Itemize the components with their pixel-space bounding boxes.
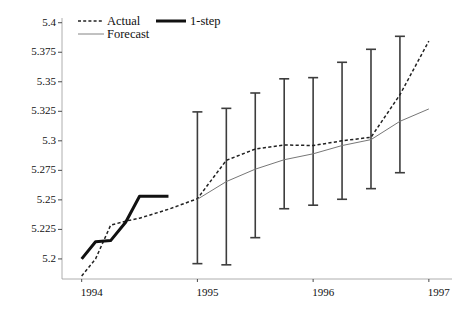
- y-tick-label: 5.375: [8, 46, 56, 57]
- y-tick-label: 5.35: [8, 76, 56, 87]
- y-tick-label: 5.225: [8, 223, 56, 234]
- legend-label-actual: Actual: [107, 15, 140, 28]
- forecast-chart: Actual Forecast 1-step 5.25.2255.255.275…: [0, 0, 464, 310]
- chart-plot-area: [0, 0, 464, 310]
- x-tick-label: 1996: [312, 287, 334, 298]
- x-tick-label: 1995: [196, 287, 218, 298]
- x-axis-tick-marks: [82, 279, 429, 282]
- y-tick-label: 5.25: [8, 194, 56, 205]
- y-tick-label: 5.2: [8, 253, 56, 264]
- series-line-1-step: [82, 196, 169, 259]
- x-tick-label: 1997: [428, 287, 450, 298]
- y-tick-label: 5.325: [8, 105, 56, 116]
- x-tick-label: 1994: [81, 287, 103, 298]
- legend-label-1-step: 1-step: [190, 15, 221, 28]
- forecast-error-bars: [192, 36, 405, 265]
- y-tick-label: 5.3: [8, 135, 56, 146]
- y-tick-label: 5.4: [8, 17, 56, 28]
- y-tick-label: 5.275: [8, 164, 56, 175]
- y-axis-tick-marks: [58, 23, 62, 259]
- legend-label-forecast: Forecast: [107, 28, 149, 41]
